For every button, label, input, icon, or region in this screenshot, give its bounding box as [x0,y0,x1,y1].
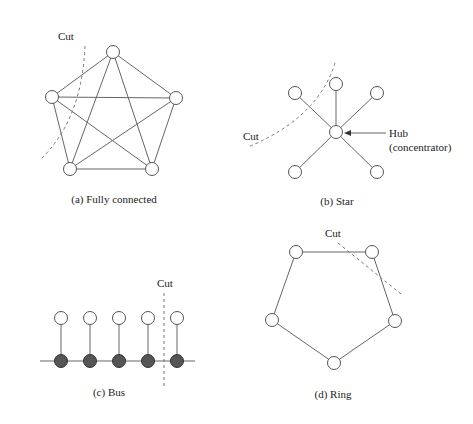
node [289,166,302,179]
node [290,246,303,259]
node [171,312,184,325]
node [289,87,302,100]
network-topologies-diagram: Cut (a) Fully connected Cut Hub (concent… [0,0,473,424]
bus-tap [84,355,97,368]
cut-label: Cut [325,227,341,239]
node [84,312,97,325]
cut-label: Cut [58,30,74,42]
node [64,163,77,176]
arrowhead-icon [344,130,351,136]
node [366,246,379,259]
caption-ring: (d) Ring [315,388,352,401]
fully-connected-panel: Cut (a) Fully connected [40,30,183,206]
hub-node [330,126,343,139]
caption-fully-connected: (a) Fully connected [71,193,157,206]
fully-connected-edges [52,52,176,169]
node [328,357,341,370]
ring-panel: Cut (d) Ring [266,227,402,401]
node [330,78,343,91]
node [266,314,279,327]
hub-sublabel: (concentrator) [389,141,452,154]
node [389,315,402,328]
bus-tap [55,355,68,368]
node [46,91,59,104]
caption-bus: (c) Bus [93,386,125,399]
bus-panel: Cut (c) Bus [40,277,195,399]
node [371,87,384,100]
bus-tap [171,355,184,368]
node [107,46,120,59]
node [170,92,183,105]
node [55,312,68,325]
bus-tap [113,355,126,368]
node [113,312,126,325]
node [146,163,159,176]
cut-label: Cut [157,277,173,289]
cut-line [40,46,85,160]
node [371,166,384,179]
hub-label: Hub [389,127,408,139]
cut-label: Cut [243,130,259,142]
caption-star: (b) Star [320,195,354,208]
star-panel: Cut Hub (concentrator) (b) Star [243,63,452,208]
cut-line [248,63,335,147]
node [142,312,155,325]
bus-tap [142,355,155,368]
